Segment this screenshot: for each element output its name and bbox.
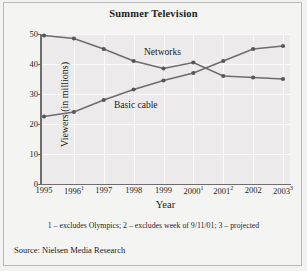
- y-axis-title: Viewers (in millions): [59, 35, 70, 175]
- x-axis-tick-2003: 20033: [273, 185, 293, 196]
- x-axis-tick-1996: 19961: [64, 185, 84, 196]
- marker-basic-cable-2002: [251, 47, 255, 51]
- marker-networks-2001: [221, 74, 225, 78]
- x-axis-tick-2001: 20012: [213, 185, 233, 196]
- marker-networks-1996: [72, 36, 76, 40]
- marker-networks-2000: [191, 60, 195, 64]
- marker-basic-cable-1997: [102, 98, 106, 102]
- marker-basic-cable-2001: [221, 59, 225, 63]
- marker-basic-cable-1998: [132, 87, 136, 91]
- marker-basic-cable-1995: [42, 114, 46, 118]
- x-axis-tick-2000: 20001: [183, 185, 203, 196]
- chart-title: Summer Television: [4, 8, 303, 19]
- marker-networks-1998: [132, 59, 136, 63]
- line-networks: [44, 36, 283, 80]
- x-axis-tick-2002: 2002: [245, 185, 262, 195]
- marker-networks-1997: [102, 47, 106, 51]
- chart-source: Source: Nielsen Media Research: [14, 245, 125, 255]
- series-label-networks: Networks: [144, 47, 181, 57]
- x-axis-tick-1999: 1999: [155, 185, 172, 195]
- x-axis-tick-labels: 1995199611997199819992000120012200220033: [41, 185, 290, 199]
- x-axis-tick-1997: 1997: [95, 185, 112, 195]
- marker-networks-1995: [42, 33, 46, 37]
- marker-networks-2002: [251, 75, 255, 79]
- x-axis-title: Year: [41, 199, 290, 210]
- marker-basic-cable-1996: [72, 110, 76, 114]
- marker-basic-cable-2000: [191, 71, 195, 75]
- marker-networks-1999: [161, 66, 165, 70]
- x-axis-tick-1998: 1998: [125, 185, 142, 195]
- plot-area-wrapper: 01020304050 Networks Basic cable Viewers…: [41, 34, 290, 184]
- x-axis-tick-1995: 1995: [36, 185, 53, 195]
- chart-figure: Summer Television 01020304050 Networks B…: [3, 2, 302, 266]
- marker-basic-cable-2003: [281, 44, 285, 48]
- chart-footnote: 1 – excludes Olympics; 2 – excludes week…: [4, 221, 303, 230]
- marker-basic-cable-1999: [161, 78, 165, 82]
- series-label-basic-cable: Basic cable: [114, 100, 158, 110]
- marker-networks-2003: [281, 77, 285, 81]
